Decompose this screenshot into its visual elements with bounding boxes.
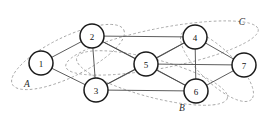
graph-node-2[interactable]: 2: [80, 24, 104, 48]
node-label-4: 4: [193, 33, 198, 43]
graph-edge-2-4: [104, 36, 183, 37]
node-label-1: 1: [39, 59, 44, 69]
graph-node-3[interactable]: 3: [84, 78, 108, 102]
graph-edge-1-3: [52, 68, 85, 84]
graph-edge-1-2: [52, 42, 82, 58]
graph-nodes-layer: 1234567: [29, 24, 256, 103]
figure-container: 1234567 ABC: [0, 0, 280, 124]
graph-edge-2-3: [93, 48, 95, 78]
graph-edge-4-6: [195, 49, 196, 79]
graph-edge-3-6: [108, 90, 184, 91]
graph-edge-5-6: [157, 70, 186, 86]
graph-diagram: 1234567 ABC: [0, 0, 280, 124]
graph-node-6[interactable]: 6: [184, 79, 208, 103]
cluster-label-A: A: [23, 79, 30, 89]
graph-edge-6-7: [207, 71, 234, 86]
node-label-3: 3: [94, 86, 99, 96]
graph-node-5[interactable]: 5: [134, 52, 158, 76]
cluster-label-B: B: [179, 103, 185, 113]
graph-edge-4-5: [157, 43, 185, 58]
cluster-ellipse-A: [4, 12, 133, 102]
graph-edge-5-7: [158, 64, 232, 65]
node-label-6: 6: [194, 87, 199, 97]
node-label-5: 5: [144, 60, 149, 70]
graph-node-4[interactable]: 4: [183, 25, 207, 49]
graph-node-7[interactable]: 7: [232, 53, 256, 77]
node-label-2: 2: [90, 32, 95, 42]
cluster-label-C: C: [239, 17, 246, 27]
node-label-7: 7: [242, 61, 247, 71]
graph-node-1[interactable]: 1: [29, 51, 53, 75]
